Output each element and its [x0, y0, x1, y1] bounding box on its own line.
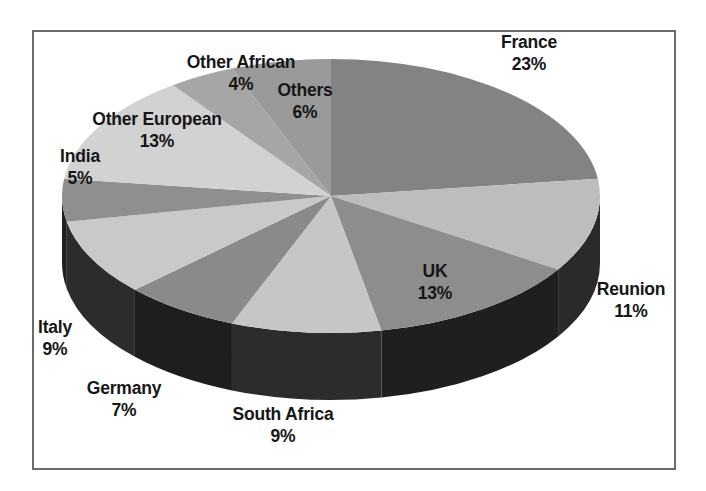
slice-label-others-percent: 6%	[255, 103, 355, 123]
slice-label-reunion-percent: 11%	[578, 302, 684, 322]
slice-label-germany-percent: 7%	[65, 401, 183, 421]
slice-label-other-african-percent: 4%	[166, 75, 316, 95]
slice-label-germany-name: Germany	[65, 379, 183, 399]
slice-label-italy-percent: 9%	[22, 340, 88, 360]
slice-label-france-name: France	[474, 33, 584, 53]
slice-label-south-africa-name: South Africa	[208, 405, 358, 425]
chart-page: France 23% Others 6% Other African 4% Ot…	[0, 0, 706, 491]
slice-label-uk-name: UK	[400, 262, 470, 282]
slice-label-other-european-name: Other European	[74, 110, 240, 130]
slice-label-south-africa: South Africa 9%	[208, 405, 358, 447]
slice-label-reunion: Reunion 11%	[578, 280, 684, 322]
slice-label-uk: UK 13%	[400, 262, 470, 304]
slice-label-germany: Germany 7%	[65, 379, 183, 421]
slice-label-uk-percent: 13%	[400, 284, 470, 304]
slice-label-india-percent: 5%	[40, 169, 120, 189]
slice-label-india: India 5%	[40, 147, 120, 189]
slice-label-france: France 23%	[474, 33, 584, 75]
slice-label-other-african: Other African 4%	[166, 53, 316, 95]
slice-label-reunion-name: Reunion	[578, 280, 684, 300]
slice-label-italy: Italy 9%	[22, 318, 88, 360]
slice-label-india-name: India	[40, 147, 120, 167]
slice-label-other-african-name: Other African	[166, 53, 316, 73]
slice-label-south-africa-percent: 9%	[208, 427, 358, 447]
slice-label-france-percent: 23%	[474, 55, 584, 75]
slice-label-italy-name: Italy	[22, 318, 88, 338]
